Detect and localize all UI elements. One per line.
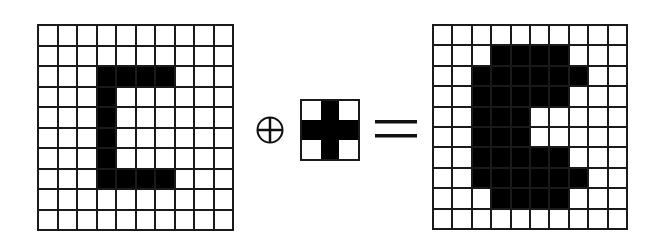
output-pixel-8-9 bbox=[609, 189, 626, 207]
output-pixel-6-3 bbox=[492, 148, 509, 166]
input-pixel-2-3 bbox=[98, 67, 116, 86]
input-pixel-3-3 bbox=[98, 88, 116, 107]
output-pixel-6-8 bbox=[589, 148, 606, 166]
output-pixel-1-7 bbox=[570, 46, 587, 64]
input-pixel-1-3 bbox=[98, 47, 116, 66]
input-pixel-8-7 bbox=[176, 190, 194, 209]
output-pixel-3-5 bbox=[531, 87, 548, 105]
input-pixel-5-4 bbox=[117, 129, 135, 148]
output-pixel-7-0 bbox=[434, 169, 451, 187]
output-pixel-0-5 bbox=[531, 26, 548, 44]
input-pixel-2-6 bbox=[156, 67, 174, 86]
output-pixel-9-6 bbox=[550, 210, 567, 228]
output-pixel-2-6 bbox=[550, 67, 567, 85]
output-pixel-9-3 bbox=[492, 210, 509, 228]
input-pixel-2-2 bbox=[78, 67, 96, 86]
struct-pixel-1-2 bbox=[339, 120, 358, 139]
output-pixel-5-1 bbox=[453, 128, 470, 146]
input-pixel-1-2 bbox=[78, 47, 96, 66]
output-pixel-4-2 bbox=[473, 108, 490, 126]
input-pixel-9-9 bbox=[215, 211, 233, 230]
input-pixel-0-3 bbox=[98, 26, 116, 45]
output-pixel-7-9 bbox=[609, 169, 626, 187]
output-pixel-6-9 bbox=[609, 148, 626, 166]
output-pixel-3-7 bbox=[570, 87, 587, 105]
input-binary-image bbox=[37, 24, 234, 231]
input-pixel-5-9 bbox=[215, 129, 233, 148]
output-pixel-6-1 bbox=[453, 148, 470, 166]
input-pixel-4-5 bbox=[137, 108, 155, 127]
output-pixel-4-1 bbox=[453, 108, 470, 126]
input-pixel-5-2 bbox=[78, 129, 96, 148]
input-pixel-3-5 bbox=[137, 88, 155, 107]
input-pixel-9-7 bbox=[176, 211, 194, 230]
output-pixel-5-8 bbox=[589, 128, 606, 146]
output-pixel-5-6 bbox=[550, 128, 567, 146]
input-pixel-6-6 bbox=[156, 149, 174, 168]
output-pixel-3-2 bbox=[473, 87, 490, 105]
input-pixel-0-8 bbox=[195, 26, 213, 45]
input-pixel-0-4 bbox=[117, 26, 135, 45]
output-pixel-0-0 bbox=[434, 26, 451, 44]
input-pixel-6-7 bbox=[176, 149, 194, 168]
output-pixel-5-7 bbox=[570, 128, 587, 146]
output-pixel-1-2 bbox=[473, 46, 490, 64]
output-pixel-5-3 bbox=[492, 128, 509, 146]
output-pixel-5-0 bbox=[434, 128, 451, 146]
input-pixel-4-8 bbox=[195, 108, 213, 127]
input-pixel-4-2 bbox=[78, 108, 96, 127]
output-pixel-2-0 bbox=[434, 67, 451, 85]
input-pixel-7-0 bbox=[39, 170, 57, 189]
structuring-element bbox=[300, 99, 360, 161]
output-pixel-9-9 bbox=[609, 210, 626, 228]
input-pixel-1-4 bbox=[117, 47, 135, 66]
struct-pixel-0-0 bbox=[302, 101, 321, 120]
input-pixel-0-7 bbox=[176, 26, 194, 45]
output-pixel-1-9 bbox=[609, 46, 626, 64]
output-pixel-0-4 bbox=[512, 26, 529, 44]
input-pixel-7-4 bbox=[117, 170, 135, 189]
input-pixel-7-3 bbox=[98, 170, 116, 189]
input-pixel-2-1 bbox=[59, 67, 77, 86]
equals-icon bbox=[374, 118, 418, 140]
input-pixel-6-3 bbox=[98, 149, 116, 168]
struct-pixel-1-0 bbox=[302, 120, 321, 139]
input-pixel-3-7 bbox=[176, 88, 194, 107]
input-pixel-7-6 bbox=[156, 170, 174, 189]
output-pixel-4-4 bbox=[512, 108, 529, 126]
input-pixel-4-0 bbox=[39, 108, 57, 127]
output-pixel-8-2 bbox=[473, 189, 490, 207]
output-pixel-3-0 bbox=[434, 87, 451, 105]
input-pixel-2-8 bbox=[195, 67, 213, 86]
output-pixel-4-8 bbox=[589, 108, 606, 126]
input-pixel-1-5 bbox=[137, 47, 155, 66]
input-pixel-4-7 bbox=[176, 108, 194, 127]
output-pixel-9-5 bbox=[531, 210, 548, 228]
input-pixel-0-6 bbox=[156, 26, 174, 45]
input-pixel-6-5 bbox=[137, 149, 155, 168]
output-pixel-7-1 bbox=[453, 169, 470, 187]
output-pixel-1-1 bbox=[453, 46, 470, 64]
output-pixel-2-2 bbox=[473, 67, 490, 85]
input-pixel-8-2 bbox=[78, 190, 96, 209]
input-pixel-1-7 bbox=[176, 47, 194, 66]
output-pixel-4-3 bbox=[492, 108, 509, 126]
input-pixel-6-2 bbox=[78, 149, 96, 168]
input-pixel-0-9 bbox=[215, 26, 233, 45]
input-pixel-9-3 bbox=[98, 211, 116, 230]
output-pixel-9-0 bbox=[434, 210, 451, 228]
output-pixel-1-8 bbox=[589, 46, 606, 64]
struct-pixel-2-1 bbox=[321, 140, 340, 159]
output-pixel-8-8 bbox=[589, 189, 606, 207]
output-pixel-3-9 bbox=[609, 87, 626, 105]
input-pixel-8-6 bbox=[156, 190, 174, 209]
output-pixel-1-5 bbox=[531, 46, 548, 64]
struct-pixel-0-2 bbox=[339, 101, 358, 120]
input-pixel-5-6 bbox=[156, 129, 174, 148]
output-pixel-0-7 bbox=[570, 26, 587, 44]
input-pixel-6-4 bbox=[117, 149, 135, 168]
output-pixel-8-6 bbox=[550, 189, 567, 207]
output-pixel-5-4 bbox=[512, 128, 529, 146]
output-pixel-8-0 bbox=[434, 189, 451, 207]
output-pixel-1-0 bbox=[434, 46, 451, 64]
